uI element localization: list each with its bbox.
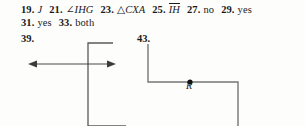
answer-list: 19.J21.∠IHG23.△CXA25.IH27.no29.yes 31.ye… — [21, 3, 289, 29]
bent-path — [148, 44, 238, 126]
answer-number: 25. — [152, 4, 165, 15]
figure-43-svg — [136, 40, 256, 126]
answer-number: 33. — [59, 17, 72, 28]
answer-number: 31. — [21, 17, 34, 28]
arrowhead-left-icon — [28, 61, 37, 68]
answer-value: both — [75, 17, 94, 28]
answer-value: IH — [169, 3, 180, 15]
answer-number: 21. — [49, 4, 62, 15]
answer-value: no — [203, 4, 214, 15]
figure-39-svg — [18, 40, 138, 126]
answer-number: 19. — [21, 4, 34, 15]
answer-key-page: 19.J21.∠IHG23.△CXA25.IH27.no29.yes 31.ye… — [0, 0, 305, 126]
answer-value: yes — [37, 17, 51, 28]
answer-value: yes — [238, 4, 252, 15]
figure-43-diagram — [136, 40, 256, 126]
vertical-line-upper — [88, 43, 113, 126]
answer-value: △CXA — [117, 4, 145, 15]
answer-number: 29. — [221, 4, 234, 15]
answer-number: 23. — [101, 4, 114, 15]
answer-number: 27. — [187, 4, 200, 15]
arrowhead-right-icon — [107, 61, 116, 68]
point-label-R: R — [186, 80, 192, 91]
answer-line: 19.J21.∠IHG23.△CXA25.IH27.no29.yes — [21, 3, 289, 16]
answer-line: 31.yes33.both — [21, 16, 289, 29]
answer-value: ∠IHG — [66, 4, 94, 15]
answer-value: J — [37, 4, 42, 15]
figure-39-diagram — [18, 40, 138, 126]
